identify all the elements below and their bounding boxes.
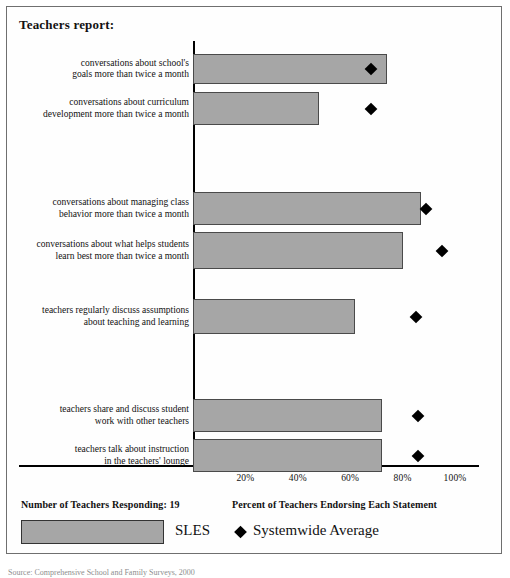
bar	[193, 192, 421, 225]
bar	[193, 299, 355, 334]
source-note: Source: Comprehensive School and Family …	[8, 568, 195, 577]
category-label-line: teachers share and discuss student	[19, 404, 189, 416]
x-axis-tick-label: 80%	[383, 473, 423, 483]
category-label: teachers share and discuss studentwork w…	[19, 404, 189, 427]
category-label-line: in the teachers' lounge	[19, 456, 189, 468]
category-label: teachers regularly discuss assumptionsab…	[19, 305, 189, 328]
bar	[193, 54, 387, 84]
x-axis-tick-label: 20%	[225, 473, 265, 483]
category-label: teachers talk about instructionin the te…	[19, 444, 189, 467]
category-label-line: goals more than twice a month	[19, 69, 189, 81]
systemwide-average-marker	[436, 244, 449, 257]
bar	[193, 92, 319, 125]
systemwide-average-marker	[409, 310, 422, 323]
legend-marker-label: Systemwide Average	[253, 522, 379, 539]
legend-bar-swatch	[21, 520, 164, 544]
systemwide-average-marker	[412, 409, 425, 422]
category-label: conversations about curriculumdevelopmen…	[19, 97, 189, 120]
chart-plot-area: conversations about school'sgoals more t…	[7, 7, 503, 555]
category-label: conversations about school'sgoals more t…	[19, 58, 189, 81]
category-label-line: development more than twice a month	[19, 109, 189, 121]
category-label-line: about teaching and learning	[19, 317, 189, 329]
category-label-line: behavior more than twice a month	[19, 209, 189, 221]
category-label-line: teachers regularly discuss assumptions	[19, 305, 189, 317]
bar	[193, 232, 403, 269]
category-label: conversations about managing classbehavi…	[19, 197, 189, 220]
respondent-count-label: Number of Teachers Responding: 19	[21, 499, 180, 510]
x-axis-caption: Percent of Teachers Endorsing Each State…	[232, 499, 437, 510]
category-label-line: teachers talk about instruction	[19, 444, 189, 456]
systemwide-average-marker	[412, 449, 425, 462]
systemwide-average-marker	[365, 102, 378, 115]
category-label-line: conversations about what helps students	[19, 239, 189, 251]
bar	[193, 439, 382, 472]
bar	[193, 399, 382, 432]
systemwide-average-marker	[420, 202, 433, 215]
category-label: conversations about what helps studentsl…	[19, 239, 189, 262]
x-axis-tick-label: 60%	[330, 473, 370, 483]
legend-bar-label: SLES	[175, 522, 210, 539]
x-axis-tick-label: 100%	[435, 473, 475, 483]
category-label-line: conversations about curriculum	[19, 97, 189, 109]
chart-frame: Teachers report: conversations about sch…	[6, 6, 502, 554]
category-label-line: conversations about managing class	[19, 197, 189, 209]
category-label-line: learn best more than twice a month	[19, 251, 189, 263]
category-label-line: conversations about school's	[19, 58, 189, 70]
category-label-line: work with other teachers	[19, 416, 189, 428]
x-axis-tick-label: 40%	[278, 473, 318, 483]
